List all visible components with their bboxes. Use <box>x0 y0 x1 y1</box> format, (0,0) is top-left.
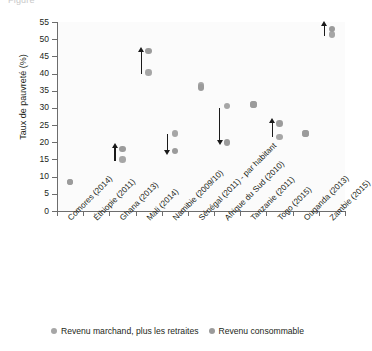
y-axis-line <box>57 22 58 212</box>
data-point <box>250 101 257 108</box>
y-tick <box>52 22 57 23</box>
arrow-head <box>138 47 144 52</box>
data-point <box>224 139 231 146</box>
arrow-down-icon <box>167 134 168 151</box>
x-tick <box>188 211 189 216</box>
y-tick-label: 45 <box>9 52 49 61</box>
data-point <box>119 146 126 153</box>
legend-label: Revenu consommable <box>219 326 305 336</box>
x-tick <box>136 211 137 216</box>
y-tick <box>52 125 57 126</box>
legend-marker-icon <box>209 328 215 334</box>
y-tick <box>52 194 57 195</box>
y-tick-label: 30 <box>9 103 49 112</box>
y-axis-title: Taux de pauvreté (%) <box>18 22 28 172</box>
y-tick <box>52 177 57 178</box>
arrow-head <box>112 143 118 148</box>
x-tick <box>109 211 110 216</box>
data-point <box>302 130 309 137</box>
x-tick <box>240 211 241 216</box>
y-tick <box>52 56 57 57</box>
arrow-up-icon <box>272 122 273 137</box>
data-point <box>198 84 205 91</box>
y-tick-label: 5 <box>9 189 49 198</box>
legend-item: Revenu marchand, plus les retraites <box>51 326 199 336</box>
y-tick-label: 0 <box>9 207 49 216</box>
legend-marker-icon <box>51 328 57 334</box>
y-tick-label: 25 <box>9 121 49 130</box>
data-point <box>276 120 283 127</box>
y-tick-label: 20 <box>9 138 49 147</box>
arrow-shaft <box>272 122 273 137</box>
data-point <box>119 156 126 163</box>
y-tick-label: 50 <box>9 35 49 44</box>
arrow-shaft <box>324 25 325 35</box>
x-tick <box>345 211 346 216</box>
y-tick <box>52 74 57 75</box>
x-tick <box>266 211 267 216</box>
data-point <box>172 130 179 137</box>
legend-item: Revenu consommable <box>209 326 305 336</box>
chart-legend: Revenu marchand, plus les retraitesReven… <box>0 326 355 336</box>
arrow-head <box>217 140 223 145</box>
legend-label: Revenu marchand, plus les retraites <box>61 326 199 336</box>
y-tick <box>52 91 57 92</box>
y-tick-label: 15 <box>9 155 49 164</box>
data-point <box>145 69 152 76</box>
data-point <box>172 148 179 155</box>
x-tick <box>214 211 215 216</box>
y-tick-label: 55 <box>9 18 49 27</box>
y-tick-label: 10 <box>9 172 49 181</box>
clipped-caption-remnant: Figure <box>8 0 35 5</box>
y-tick <box>52 39 57 40</box>
arrow-head <box>321 21 327 26</box>
arrow-up-icon <box>141 51 142 73</box>
arrow-shaft <box>219 108 220 141</box>
arrow-up-icon <box>114 147 115 161</box>
arrow-head <box>269 118 275 123</box>
arrow-down-icon <box>219 108 220 141</box>
x-tick <box>57 211 58 216</box>
arrow-shaft <box>114 147 115 161</box>
arrow-shaft <box>167 134 168 151</box>
data-point <box>329 31 336 38</box>
y-tick-label: 35 <box>9 86 49 95</box>
x-tick <box>83 211 84 216</box>
arrow-up-icon <box>324 25 325 35</box>
arrow-head <box>164 150 170 155</box>
data-point <box>276 134 283 141</box>
arrow-shaft <box>141 51 142 73</box>
y-tick <box>52 108 57 109</box>
y-tick <box>52 159 57 160</box>
y-tick-label: 40 <box>9 69 49 78</box>
y-tick <box>52 142 57 143</box>
